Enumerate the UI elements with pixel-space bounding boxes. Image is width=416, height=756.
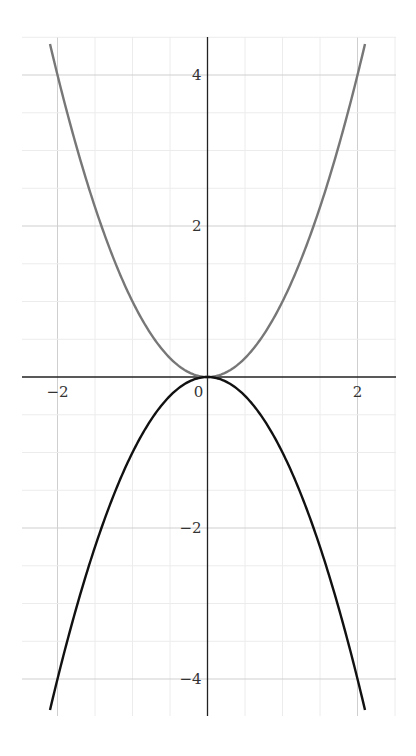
x-tick-label: 0 [194,383,204,401]
y-tick-label: 2 [192,217,202,235]
y-tick-label: −2 [179,519,201,537]
y-tick-label: −4 [179,670,201,688]
parabola-chart: −202−4−224 [0,0,416,756]
x-tick-label: 2 [353,383,363,401]
x-tick-label: −2 [46,383,68,401]
y-tick-label: 4 [192,66,202,84]
